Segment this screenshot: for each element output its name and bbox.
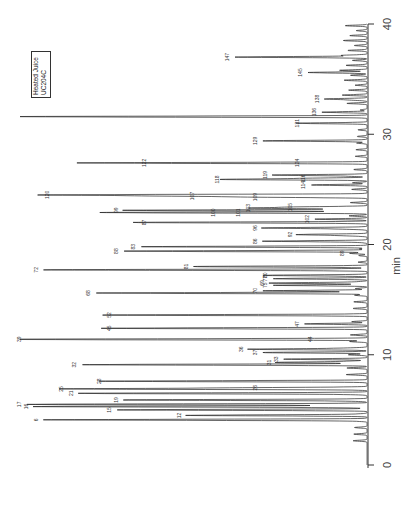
peak-label: 72	[33, 267, 39, 273]
peak-label: 92	[287, 232, 293, 238]
peak-label: 124	[294, 159, 300, 168]
peak-labels: 6121516172125261928313233363739444547526…	[16, 53, 345, 422]
peak-label: 89	[339, 250, 345, 256]
tick-label: 0	[381, 462, 393, 468]
legend-line-2: UC204C	[40, 50, 48, 95]
peak-label: 99	[113, 207, 119, 213]
peak-label: 68	[85, 290, 91, 296]
peak-label: 83	[130, 244, 136, 250]
peak-label: 145	[297, 68, 303, 77]
peak-label: 100	[210, 208, 216, 217]
legend-box: Heated Juice UC204C	[31, 51, 51, 98]
peak-label: 109	[252, 193, 258, 202]
peak-label: 17	[16, 401, 22, 407]
time-axis-ticks: 010203040	[368, 18, 393, 468]
peak-label: 33	[273, 356, 279, 362]
tick-label: 20	[381, 238, 393, 250]
legend-text: Heated Juice UC204C	[32, 50, 50, 97]
peak-label: 147	[224, 53, 230, 62]
peak-label: 105	[287, 203, 293, 212]
peak-label: 75	[262, 282, 268, 288]
tick-label: 40	[381, 18, 393, 30]
peak-label: 138	[314, 95, 320, 104]
peak-label: 102	[304, 215, 310, 224]
peak-label: 28	[96, 378, 102, 384]
peak-label: 129	[252, 136, 258, 145]
peak-label: 26	[252, 385, 258, 391]
peak-label: 19	[113, 397, 119, 403]
peak-label: 44	[307, 336, 313, 342]
peak-label: 88	[113, 248, 119, 254]
chromatogram: 6121516172125261928313233363739444547526…	[0, 0, 420, 510]
peak-label: 37	[252, 350, 258, 356]
tick-label: 10	[381, 349, 393, 361]
peak-label: 86	[252, 238, 258, 244]
peak-label: 52	[106, 312, 112, 318]
peak-label: 39	[16, 336, 22, 342]
peak-label: 31	[266, 359, 272, 365]
peak-label: 80	[262, 272, 268, 278]
peak-label: 25	[58, 386, 64, 392]
peak-label: 87	[141, 219, 147, 225]
legend-line-1: Heated Juice	[32, 50, 40, 95]
peak-label: 32	[71, 362, 77, 368]
peak-label: 116	[300, 174, 306, 182]
peak-label: 122	[141, 159, 147, 168]
tick-label: 30	[381, 128, 393, 140]
peak-label: 70	[252, 288, 258, 294]
peak-label: 12	[176, 412, 182, 418]
peak-label: 131	[294, 119, 300, 128]
signal-trace	[20, 24, 367, 465]
peak-label: 16	[23, 404, 29, 410]
peak-label: 81	[183, 264, 189, 270]
peak-label: 47	[294, 321, 300, 327]
peak-label: 6	[33, 418, 39, 421]
peak-label: 103	[245, 204, 251, 213]
peak-label: 120	[44, 190, 50, 199]
peak-label: 136	[311, 108, 317, 117]
peak-label: 45	[106, 325, 112, 331]
peak-traces	[20, 24, 367, 465]
peak-label: 119	[262, 171, 268, 179]
peak-label: 96	[252, 225, 258, 231]
axis-title: min	[390, 257, 402, 275]
peak-label: 36	[238, 346, 244, 352]
peak-label: 15	[106, 407, 112, 413]
peak-label: 118	[214, 175, 220, 183]
peak-label: 21	[68, 390, 74, 396]
peak-label: 101	[235, 208, 241, 217]
peak-label: 107	[189, 192, 195, 201]
